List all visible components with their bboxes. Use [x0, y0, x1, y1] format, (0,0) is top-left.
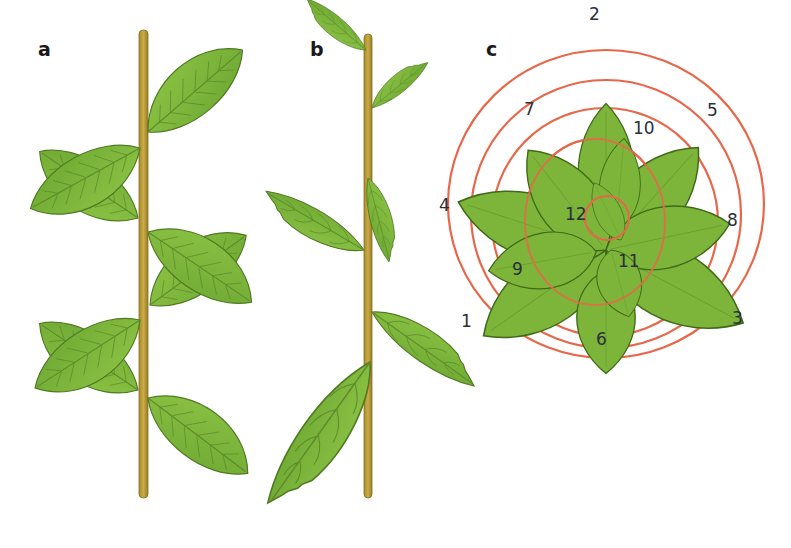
stem-b — [364, 34, 372, 498]
rosette-number-10: 10 — [633, 118, 655, 138]
panel-c-spiral-rosette: 1 2 3 4 5 6 7 8 9 10 11 12 — [439, 4, 764, 374]
rosette-number-5: 5 — [707, 100, 718, 120]
rosette-number-4: 4 — [439, 195, 450, 215]
rosette-number-11: 11 — [618, 251, 640, 271]
rosette-number-6: 6 — [596, 329, 607, 349]
rosette-number-1: 1 — [461, 311, 472, 331]
rosette-number-2: 2 — [589, 4, 600, 24]
rosette-number-8: 8 — [727, 210, 738, 230]
rosette-number-7: 7 — [524, 99, 535, 119]
rosette-number-9: 9 — [512, 259, 523, 279]
panel-a-opposite-decussate — [19, 29, 267, 498]
rosette-number-3: 3 — [732, 308, 743, 328]
panel-b-alternate — [256, 0, 486, 519]
rosette-number-12: 12 — [565, 204, 587, 224]
stem-a — [139, 30, 148, 498]
botanical-diagram: 1 2 3 4 5 6 7 8 9 10 11 12 — [0, 0, 791, 548]
